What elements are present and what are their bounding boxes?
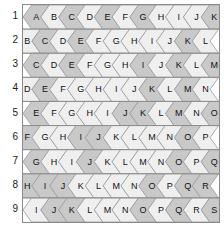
hex-cell-letter: G: [33, 157, 40, 167]
row-number: 4: [0, 83, 18, 93]
hex-cell-letter: I: [79, 132, 82, 142]
hex-cell-letter: F: [60, 84, 66, 94]
hex-grid-canvas: ABCDEFGHIJKBCDEFGHIJKLCDEFGHIJKLMDEFGHIJ…: [23, 5, 219, 222]
hex-cell-letter: D: [24, 84, 31, 94]
hex-cell-letter: D: [86, 12, 93, 22]
hex-cell-letter: Q: [211, 157, 218, 167]
hex-cell-letter: K: [140, 108, 146, 118]
hex-cell-letter: O: [211, 108, 218, 118]
hex-cell-letter: M: [175, 108, 183, 118]
hex-cell-letter: D: [60, 36, 67, 46]
hex-cell-letter: K: [104, 157, 110, 167]
row-number: 6: [0, 132, 18, 142]
row-number: 8: [0, 180, 18, 190]
hex-cell-letter: I: [35, 205, 38, 215]
hex-cell-letter: G: [42, 132, 49, 142]
hex-grid: ABCDEFGHIJKBCDEFGHIJKLCDEFGHIJKLMDEFGHIJ…: [22, 4, 220, 223]
hex-cell-letter: N: [167, 132, 174, 142]
hex-cell-letter: E: [78, 36, 84, 46]
hex-cell-letter: P: [202, 132, 208, 142]
hex-cell-letter: F: [25, 132, 31, 142]
hex-cell-letter: B: [24, 36, 30, 46]
hex-cell-letter: I: [177, 12, 180, 22]
hex-cell-letter: L: [167, 84, 172, 94]
hex-cell-letter: J: [168, 36, 173, 46]
hex-cell-letter: G: [140, 12, 147, 22]
hex-cell-letter: M: [211, 60, 219, 70]
hex-cell-letter: F: [96, 36, 102, 46]
hex-cell-letter: D: [51, 60, 58, 70]
hex-cell-letter: H: [95, 84, 102, 94]
hex-cell-letter: P: [167, 181, 173, 191]
hex-cell-letter: C: [33, 60, 40, 70]
hex-cell-letter: K: [78, 181, 84, 191]
hex-cell-letter: K: [113, 132, 119, 142]
hex-cell-letter: L: [123, 157, 128, 167]
hex-cell-letter: R: [193, 205, 200, 215]
hex-cell-letter: L: [194, 60, 199, 70]
hex-cell-letter: J: [194, 12, 199, 22]
hex-cell-letter: H: [24, 181, 31, 191]
figure-root: 123456789 ABCDEFGHIJKBCDEFGHIJKLCDEFGHIJ…: [0, 0, 224, 227]
hex-cell-letter: Q: [175, 205, 182, 215]
hex-cell-letter: M: [148, 132, 156, 142]
row-number-gutter: 123456789: [0, 0, 22, 227]
hex-cell-letter: H: [86, 108, 93, 118]
hex-cell-letter: S: [211, 205, 217, 215]
hex-cell-letter: K: [176, 60, 182, 70]
hex-cell-letter: N: [193, 108, 200, 118]
row-number: 1: [0, 11, 18, 21]
hex-cell-letter: N: [202, 84, 209, 94]
hex-cell-letter: L: [132, 132, 137, 142]
hex-cell-letter: M: [104, 205, 112, 215]
hex-cell-letter: M: [139, 157, 147, 167]
hex-cell-letter: N: [131, 181, 138, 191]
hex-cell-letter: H: [131, 36, 138, 46]
hex-cell-letter: P: [158, 205, 164, 215]
hex-cell-letter: J: [159, 60, 164, 70]
hex-cell-letter: G: [104, 60, 111, 70]
hex-cell-letter: I: [44, 181, 47, 191]
hex-cell-letter: K: [149, 84, 155, 94]
hex-cell-letter: O: [175, 157, 182, 167]
hex-cell-letter: K: [185, 36, 191, 46]
row-number: 7: [0, 156, 18, 166]
hex-cell-letter: M: [113, 181, 121, 191]
row-number: 9: [0, 204, 18, 214]
hex-cell-letter: O: [184, 132, 191, 142]
hex-cell-letter: O: [140, 205, 147, 215]
hex-cell-letter: F: [51, 108, 57, 118]
hex-cell-letter: J: [52, 205, 57, 215]
hex-cell-letter: B: [51, 12, 57, 22]
hex-cell-letter: G: [68, 108, 75, 118]
hex-cell-letter: H: [158, 12, 165, 22]
hex-cell-letter: H: [122, 60, 129, 70]
hex-cell-letter: O: [148, 181, 155, 191]
hex-cell-letter: C: [42, 36, 49, 46]
hex-cell-letter: M: [184, 84, 192, 94]
row-number: 3: [0, 59, 18, 69]
hex-cell-letter: N: [122, 205, 129, 215]
hex-cell-letter: R: [202, 181, 209, 191]
hex-cell-letter: H: [51, 157, 58, 167]
hex-cell-letter: L: [96, 181, 101, 191]
hex-cell-letter: I: [142, 60, 145, 70]
hex-cell-letter: E: [33, 108, 39, 118]
hex-cell-letter: C: [69, 12, 76, 22]
hex-cell-letter: J: [123, 108, 128, 118]
hex-cell-letter: E: [42, 84, 48, 94]
row-number: 5: [0, 108, 18, 118]
hex-cell-letter: I: [71, 157, 74, 167]
hex-cell-letter: I: [106, 108, 109, 118]
hex-cell-letter: L: [203, 36, 208, 46]
hex-cell-letter: J: [132, 84, 137, 94]
hex-cell-letter: L: [87, 205, 92, 215]
hex-cell-letter: J: [61, 181, 66, 191]
hex-cell-letter: K: [69, 205, 75, 215]
hex-cell-letter: G: [77, 84, 84, 94]
hex-cell-letter: E: [104, 12, 110, 22]
hex-cell-letter: E: [69, 60, 75, 70]
hex-cell-letter: H: [60, 132, 67, 142]
row-number: 2: [0, 35, 18, 45]
hex-cell-letter: K: [211, 12, 217, 22]
